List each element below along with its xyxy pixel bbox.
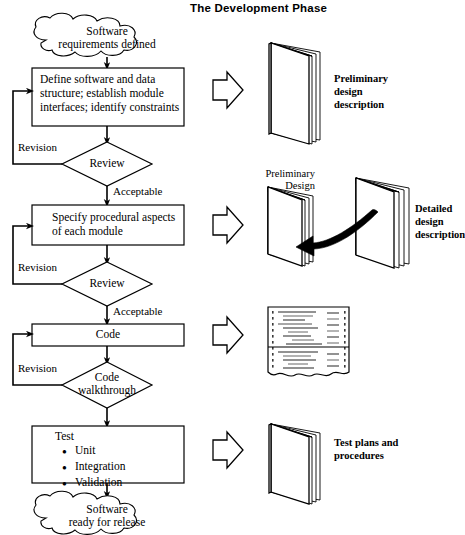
output-2-label-line2: design	[415, 216, 444, 229]
book-icon-2-left	[268, 187, 313, 266]
process1-line3: interfaces; identify constraints	[40, 101, 179, 115]
code-listing-icon	[268, 307, 349, 376]
output-2-label-line1: Detailed	[415, 203, 452, 216]
process2-line2: of each module	[52, 225, 123, 239]
process3-label: Code	[32, 328, 184, 342]
decision3-line1: Code	[72, 371, 142, 385]
start-cloud-line1: Software	[32, 25, 182, 39]
edge-label-revision-1: Revision	[18, 141, 57, 153]
process4-item: Validation	[62, 475, 125, 491]
process4-item: Unit	[62, 443, 125, 459]
output-1-label-line1: Preliminary	[334, 73, 388, 86]
block-arrow-3-shape	[213, 317, 243, 353]
edge-label-revision-3: Revision	[18, 362, 57, 374]
block-arrow-1-shape	[213, 72, 243, 108]
edge-label-acceptable-2: Acceptable	[113, 305, 162, 317]
book-icon-4	[269, 424, 320, 504]
output-2-label-line3: description	[415, 229, 465, 242]
decision1-label: Review	[72, 157, 142, 171]
edge-label-acceptable-1: Acceptable	[113, 185, 162, 197]
output-1-label-line3: description	[334, 99, 384, 112]
decision2-label: Review	[72, 277, 142, 291]
process1-line2: structure; establish module	[40, 87, 164, 101]
end-cloud-line2: ready for release	[32, 516, 182, 530]
process1-line1: Define software and data	[40, 73, 155, 87]
end-cloud-line1: Software	[32, 503, 182, 517]
book-icon-1	[269, 43, 320, 144]
output-2-inner-label-line2: Design	[250, 180, 315, 192]
block-arrow-4-shape	[213, 432, 243, 468]
output-1-label-line2: design	[334, 86, 363, 99]
block-arrow-2-shape	[213, 207, 243, 243]
process4-item: Integration	[62, 459, 125, 475]
output-4-label-line2: procedures	[334, 450, 384, 463]
start-cloud-line2: requirements defined	[32, 38, 182, 52]
process4-item-list: Unit Integration Validation	[62, 443, 125, 491]
decision3-line2: walkthrough	[64, 384, 150, 398]
output-4-label-line1: Test plans and	[334, 437, 398, 450]
process2-line1: Specify procedural aspects	[52, 211, 175, 225]
process4-label: Test	[55, 430, 74, 444]
page-title: The Development Phase	[190, 2, 327, 14]
output-2-inner-label-line1: Preliminary	[250, 168, 315, 180]
edge-label-revision-2: Revision	[18, 261, 57, 273]
